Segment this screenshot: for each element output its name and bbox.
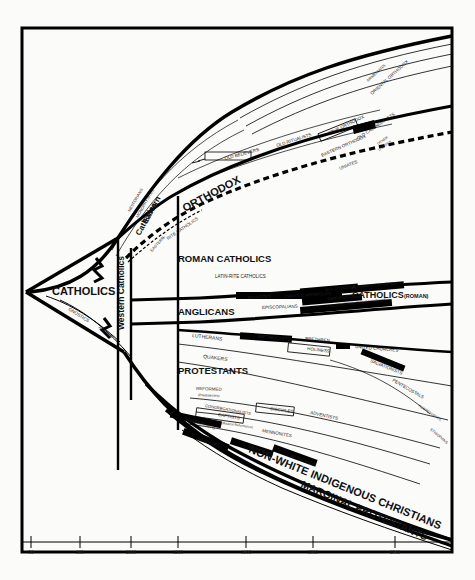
anglicans-label: ANGLICANS <box>178 306 234 317</box>
catholics-roman-paren-label: (ROMAN) <box>404 293 429 299</box>
reformed-label: REFORMED <box>196 386 223 392</box>
protestants-label: PROTESTANTS <box>178 365 248 376</box>
axis-tick-label: 30 <box>28 550 34 555</box>
western-catholics-label: Western Catholics <box>116 256 126 330</box>
axis-tick-label: 500 <box>76 550 84 555</box>
roman-catholics-label: ROMAN CATHOLICS <box>178 253 271 264</box>
catholics-roman-label: CATHOLICS <box>352 290 404 300</box>
axis-tick-label: 1960 <box>390 550 401 555</box>
stream-diagram-svg: 3050010001500180019001960 GNOSTICSARIANS… <box>0 0 475 580</box>
axis-tick-label: 1000 <box>126 550 137 555</box>
united-churches-plate <box>336 343 350 349</box>
presbyterians-label: (Presbyterians) <box>198 393 220 398</box>
diagram-canvas: 3050010001500180019001960 GNOSTICSARIANS… <box>0 0 475 580</box>
catholics-label: CATHOLICS <box>52 285 115 297</box>
axis-tick-label: 1800 <box>241 550 252 555</box>
axis-tick-label: 1900 <box>308 550 319 555</box>
axis-tick-label: 1500 <box>173 550 184 555</box>
latin-rite-label: LATIN-RITE CATHOLICS <box>215 274 266 279</box>
